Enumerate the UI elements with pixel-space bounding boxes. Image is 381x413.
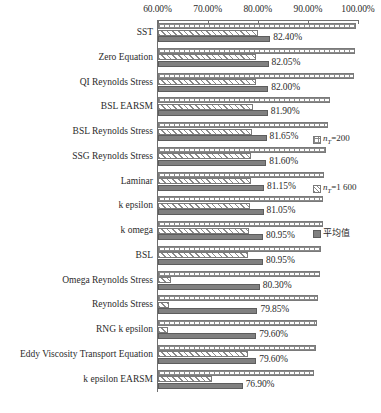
x-axis-tick-mark [308, 20, 309, 24]
category-label: k omega [121, 224, 153, 236]
bar-value-label: 80.95% [266, 230, 295, 241]
bar-nt-200[interactable] [158, 48, 355, 54]
bar-group-row: Eddy Viscosity Transport Equation79.60% [0, 343, 381, 368]
bar-group-row: SST82.40% [0, 21, 381, 46]
bar-nt-1600[interactable] [158, 129, 252, 135]
bar-nt-1600[interactable] [158, 302, 169, 308]
bar-nt-1600[interactable] [158, 178, 251, 184]
legend-label: nT=200 [323, 133, 350, 147]
bar-nt-200[interactable] [158, 97, 330, 103]
bar-nt-200[interactable] [158, 122, 328, 128]
legend-item[interactable]: 平均值 [313, 228, 350, 239]
bar-nt-200[interactable] [158, 147, 326, 153]
bar-average[interactable] [158, 209, 264, 215]
category-label: SSG Reynolds Stress [72, 150, 153, 162]
bar-nt-1600[interactable] [158, 153, 251, 159]
bar-group-row: BSL EARSM81.90% [0, 95, 381, 120]
bar-value-label: 81.90% [271, 106, 300, 117]
x-axis-tick-label: 70.00% [193, 3, 222, 15]
bar-nt-200[interactable] [158, 320, 317, 326]
category-label: Eddy Viscosity Transport Equation [20, 348, 153, 360]
bar-nt-1600[interactable] [158, 252, 248, 258]
bar-group-row: Reynolds Stress79.85% [0, 293, 381, 318]
bar-group [158, 97, 359, 118]
legend-item[interactable]: nT=200 [313, 133, 350, 147]
bar-nt-1600[interactable] [158, 30, 258, 36]
bar-value-label: 80.30% [263, 280, 292, 291]
bar-nt-1600[interactable] [158, 351, 248, 357]
x-axis-tick-label: 90.00% [294, 3, 323, 15]
x-axis-tick-mark [158, 20, 159, 24]
bar-average[interactable] [158, 160, 266, 166]
bar-average[interactable] [158, 284, 260, 290]
bar-nt-1600[interactable] [158, 277, 171, 283]
bar-average[interactable] [158, 358, 256, 364]
category-label: QI Reynolds Stress [80, 76, 153, 88]
bar-average[interactable] [158, 36, 270, 42]
bar-nt-1600[interactable] [158, 327, 168, 333]
bar-nt-200[interactable] [158, 196, 323, 202]
bar-average[interactable] [158, 110, 268, 116]
legend-label: 平均值 [323, 228, 350, 239]
category-label: RNG k epsilon [96, 323, 153, 335]
bar-value-label: 81.65% [270, 131, 299, 142]
legend-item[interactable]: nT=1 600 [313, 182, 356, 196]
legend-swatch-nt-200 [313, 136, 321, 144]
bar-nt-200[interactable] [158, 370, 314, 376]
bar-group-row: Zero Equation82.05% [0, 46, 381, 71]
bar-value-label: 76.90% [246, 379, 275, 390]
bar-average[interactable] [158, 308, 257, 314]
bar-nt-200[interactable] [158, 271, 320, 277]
x-axis-tick-label: 80.00% [243, 3, 272, 15]
bar-nt-1600[interactable] [158, 54, 256, 60]
category-label: k epsilon EARSM [83, 373, 153, 385]
bar-nt-1600[interactable] [158, 104, 253, 110]
bar-average[interactable] [158, 234, 263, 240]
bar-group [158, 147, 359, 168]
category-label: Zero Equation [98, 51, 153, 63]
bar-average[interactable] [158, 259, 263, 265]
category-label: BSL EARSM [101, 100, 153, 112]
bar-nt-200[interactable] [158, 295, 318, 301]
bar-average[interactable] [158, 86, 268, 92]
x-axis-tick-labels: 60.00%70.00%80.00%90.00%100.00% [0, 3, 381, 17]
bar-nt-1600[interactable] [158, 79, 256, 85]
bar-value-label: 79.60% [259, 354, 288, 365]
bar-average[interactable] [158, 185, 264, 191]
category-label: Reynolds Stress [92, 298, 153, 310]
bar-nt-200[interactable] [158, 246, 321, 252]
bar-nt-200[interactable] [158, 73, 354, 79]
x-axis-tick-mark [208, 20, 209, 24]
bar-nt-200[interactable] [158, 172, 324, 178]
bar-average[interactable] [158, 61, 269, 67]
category-label: Laminar [121, 175, 153, 187]
bar-nt-200[interactable] [158, 345, 316, 351]
bar-value-label: 82.00% [271, 82, 300, 93]
bar-value-label: 82.40% [273, 32, 302, 43]
bar-value-label: 81.60% [269, 156, 298, 167]
bar-group-row: Omega Reynolds Stress80.30% [0, 269, 381, 294]
x-axis-tick-label: 100.00% [341, 3, 374, 15]
bar-group [158, 246, 359, 267]
bar-value-label: 80.95% [266, 255, 295, 266]
x-axis-tick-label: 60.00% [143, 3, 172, 15]
bar-average[interactable] [158, 333, 256, 339]
legend-swatch-nt-1600 [313, 185, 321, 193]
bar-nt-1600[interactable] [158, 376, 212, 382]
bar-group-row: k epsilon EARSM76.90% [0, 368, 381, 393]
category-label: BSL Reynolds Stress [73, 125, 153, 137]
category-label: SST [137, 26, 153, 38]
bar-nt-1600[interactable] [158, 228, 249, 234]
bar-average[interactable] [158, 135, 267, 141]
bar-nt-1600[interactable] [158, 203, 250, 209]
x-axis-tick-mark [258, 20, 259, 24]
bar-group-row: BSL80.95% [0, 244, 381, 269]
legend-swatch-average [313, 230, 321, 238]
bar-group [158, 196, 359, 217]
bar-value-label: 79.60% [259, 329, 288, 340]
bar-average[interactable] [158, 383, 243, 389]
bar-value-label: 81.05% [267, 205, 296, 216]
bar-group [158, 23, 359, 44]
bar-nt-200[interactable] [158, 221, 323, 227]
bar-group-row: QI Reynolds Stress82.00% [0, 71, 381, 96]
